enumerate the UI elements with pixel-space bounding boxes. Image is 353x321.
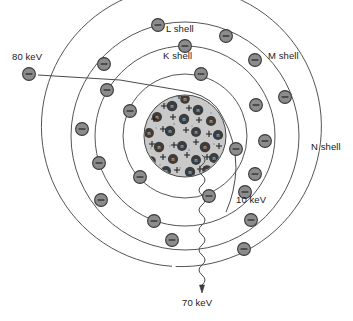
electron-m-10 [249, 54, 262, 67]
neutron: n [161, 166, 171, 176]
incident-energy-label: 80 keV [12, 51, 42, 62]
electron-outer-2 [249, 168, 262, 181]
neutron: n [154, 142, 164, 152]
neutron: n [167, 101, 178, 112]
neutron: n [206, 116, 216, 126]
neutron: n [191, 127, 201, 137]
electron-m-4 [76, 123, 89, 136]
electron-outer-1 [279, 91, 292, 104]
svg-text:n: n [158, 144, 161, 150]
svg-text:n: n [183, 116, 186, 122]
svg-text:n: n [181, 143, 184, 149]
diagram-canvas: n n n n n n n n n n n n n n n n n [0, 0, 353, 321]
electron-m-8 [245, 214, 258, 227]
k-shell-label: K shell [163, 50, 192, 61]
neutron: n [193, 105, 204, 116]
photon-energy-label: 70 keV [182, 297, 212, 308]
electron-l-3 [93, 157, 106, 170]
neutron: n [179, 114, 189, 124]
electron-m-5 [95, 194, 108, 207]
svg-text:n: n [172, 156, 175, 162]
svg-text:n: n [197, 107, 200, 113]
n-shell-label: N shell [311, 141, 341, 152]
neutron: n [168, 154, 178, 164]
electron-k-1 [195, 68, 208, 81]
m-shell-label: M shell [268, 50, 299, 61]
electron-m-7 [238, 243, 251, 256]
svg-text:n: n [195, 157, 198, 163]
neutron: n [200, 142, 211, 153]
svg-text:n: n [184, 96, 187, 102]
electron-m-9 [259, 135, 272, 148]
electron-m-2 [220, 30, 233, 43]
svg-text:n: n [210, 118, 213, 124]
l-shell-label: L shell [166, 23, 194, 34]
svg-text:n: n [213, 155, 216, 161]
svg-text:n: n [204, 144, 207, 150]
svg-text:n: n [189, 169, 192, 175]
svg-text:n: n [169, 128, 172, 134]
electron-k-3 [134, 171, 147, 184]
neutron: n [213, 130, 223, 140]
electron-k-5 [230, 143, 243, 156]
electron-k-4 [203, 190, 216, 203]
svg-text:n: n [217, 132, 220, 138]
svg-text:n: n [148, 130, 151, 136]
neutron: n [191, 155, 201, 165]
electron-incident [23, 68, 36, 81]
neutron: n [165, 126, 175, 136]
electron-m-6 [166, 234, 179, 247]
atomic-interaction-diagram: n n n n n n n n n n n n n n n n n [0, 0, 353, 321]
svg-text:n: n [195, 129, 198, 135]
electron-l-2 [101, 84, 114, 97]
scattered-energy-label: 10 keV [236, 194, 266, 205]
nucleus: n n n n n n n n n n n n n n n n n [144, 93, 226, 177]
neutron: n [177, 141, 187, 151]
electron-m-1 [152, 19, 165, 32]
photon-arrowhead [200, 285, 205, 293]
electron-k-2 [124, 105, 137, 118]
svg-text:n: n [171, 103, 174, 109]
electron-m-3 [98, 58, 111, 71]
neutron: n [144, 128, 154, 138]
electron-l-6 [250, 99, 263, 112]
electron-l-4 [148, 215, 161, 228]
